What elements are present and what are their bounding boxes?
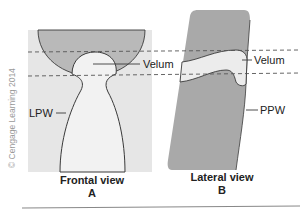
ppw-label: PPW — [260, 104, 286, 116]
posterior-pharyngeal-wall — [168, 10, 250, 170]
lateral-view-caption: Lateral view — [191, 171, 254, 183]
panel-b-letter: B — [218, 184, 226, 196]
lpw-label: LPW — [29, 107, 53, 119]
velum-label-a: Velum — [143, 58, 174, 70]
bottom-rule — [22, 206, 300, 208]
velum-label-b: Velum — [254, 54, 285, 66]
velopharyngeal-diagram: © Cengage Learning 2014 Velum LPW Velum … — [0, 0, 308, 210]
panel-a-letter: A — [88, 187, 96, 199]
copyright-text: © Cengage Learning 2014 — [7, 68, 17, 168]
frontal-view-caption: Frontal view — [60, 174, 125, 186]
lateral-view-panel — [168, 10, 258, 170]
